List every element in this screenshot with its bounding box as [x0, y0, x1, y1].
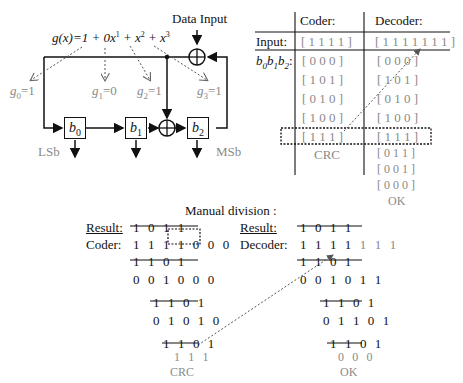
coder-step-2: 0 0 1 0 0 0 — [133, 272, 217, 288]
input-row-label: Input: — [256, 34, 287, 50]
decoder-state-0: [ 0 0 0 ] — [377, 53, 418, 69]
coefficient-g1: g1=0 — [92, 83, 117, 101]
polynomial-exp3: 3 — [166, 30, 170, 39]
decoder-input: [ 1 1 1 1 1 1 1 ] — [375, 34, 455, 50]
lsb-label: LSb — [38, 144, 60, 160]
decoder-state-5: [ 0 1 1 ] — [377, 146, 415, 161]
decoder-state-3: [ 1 0 0 ] — [377, 110, 418, 126]
decoder-dividend: 1 1 1 1 1 1 1 — [300, 237, 399, 253]
decoder-footer-ok: OK — [388, 194, 405, 209]
coder-footer-crc: CRC — [170, 365, 194, 380]
coder-remainder: 1 1 1 — [174, 350, 211, 365]
coder-state-4: [ 1 1 1 ] — [302, 129, 343, 145]
decoder-footer-ok: OK — [340, 365, 357, 380]
coder-dividend: 1 1 1 1 0 0 0 — [133, 237, 232, 253]
coder-state-1: [ 1 0 1 ] — [302, 72, 343, 88]
table-header-coder: Coder: — [300, 13, 335, 29]
coder-input: [ 1 1 1 1 ] — [301, 34, 352, 50]
coefficient-g0: g0=1 — [10, 83, 35, 101]
decoder-row-label: Decoder: — [240, 237, 288, 253]
decoder-state-6: [ 0 0 1 ] — [377, 162, 415, 177]
polynomial-term3: + x — [145, 30, 166, 45]
decoder-step-3: 1 1 0 1 — [323, 295, 377, 311]
coder-result-label: Result: — [86, 220, 123, 236]
msb-label: MSb — [216, 144, 241, 160]
table-header-decoder: Decoder: — [375, 13, 423, 29]
coder-row-label: Coder: — [86, 237, 121, 253]
data-input-label: Data Input — [172, 11, 227, 27]
coder-result-value: 1 0 1 1 — [133, 220, 187, 236]
decoder-result-value: 1 0 1 1 — [300, 220, 354, 236]
coder-state-2: [ 0 1 0 ] — [302, 91, 343, 107]
coefficient-g2: g2=1 — [137, 83, 162, 101]
decoder-state-4: [ 1 1 1 ] — [377, 129, 418, 145]
register-b2: b2 — [187, 117, 209, 139]
register-b1: b1 — [125, 117, 147, 139]
coder-step-4: 0 1 0 1 0 — [153, 313, 222, 329]
division-title: Manual division : — [185, 203, 277, 219]
generator-polynomial: g(x)=1 + 0x1 + x2 + x3 — [52, 30, 170, 46]
decoder-state-1: [ 1 0 1 ] — [377, 72, 418, 88]
coder-step-3: 1 1 0 1 — [153, 295, 207, 311]
decoder-state-2: [ 0 1 0 ] — [377, 91, 418, 107]
coder-state-0: [ 0 0 0 ] — [302, 53, 343, 69]
coder-footer-crc: CRC — [314, 147, 340, 163]
polynomial-term2: + x — [120, 30, 141, 45]
coefficient-g3: g3=1 — [197, 83, 222, 101]
decoder-step-4: 0 1 1 0 1 — [323, 313, 392, 329]
register-b0: b0 — [64, 117, 86, 139]
decoder-step-2: 0 0 1 0 1 1 — [300, 272, 384, 288]
decoder-step-1: 1 1 0 1 — [300, 254, 354, 270]
state-row-label: b0b1b2: — [256, 53, 293, 71]
coder-state-3: [ 1 0 0 ] — [302, 110, 343, 126]
decoder-remainder: 0 0 0 — [338, 350, 375, 365]
decoder-result-label: Result: — [240, 220, 277, 236]
decoder-state-7: [ 0 0 0 ] — [377, 178, 415, 193]
polynomial-prefix: g(x)=1 + 0x — [52, 30, 116, 45]
coder-step-1: 1 1 0 1 — [133, 254, 187, 270]
